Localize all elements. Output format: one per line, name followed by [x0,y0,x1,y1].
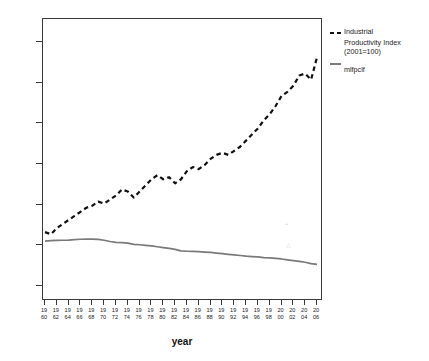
x-axis-tick-mark [210,300,211,305]
x-axis-tick-mark [103,300,104,305]
plot-area: ▵ △ [42,18,322,300]
x-axis-labels: 1960196219641966196819701972197419761978… [0,307,429,329]
x-axis-tick-mark [198,300,199,305]
x-axis-tick-mark [186,300,187,305]
chart-legend: Industrial Productivity Index (2001=100)… [330,20,429,78]
x-axis-tick-mark [150,300,151,305]
legend-label-line3: (2001=100) [344,47,429,56]
series-line-mlfpclf [45,239,317,264]
x-axis-tick-mark [269,300,270,305]
data-series-layer [43,19,321,299]
x-axis-title: year [0,336,364,347]
x-axis-tick-mark [245,300,246,305]
x-axis-tick-mark [139,300,140,305]
x-axis-tick-mark [281,300,282,305]
x-axis-tick-mark [257,300,258,305]
x-axis-tick-mark [68,300,69,305]
legend-label-industrial: Industrial Productivity Index (2001=100) [344,27,429,56]
x-axis-tick-mark [127,300,128,305]
x-axis-tick-mark [91,300,92,305]
legend-label-line2: Productivity Index [344,38,429,47]
dashed-line-marker [330,29,341,37]
x-axis-tick-mark [115,300,116,305]
x-axis-tick-mark [79,300,80,305]
legend-label-mlfpclf: mlfpclf [344,65,365,74]
x-axis-tick-mark [233,300,234,305]
x-axis-tick-mark [221,300,222,305]
x-axis-tick-mark [44,300,45,305]
x-axis-tick-mark [292,300,293,305]
series-line-industrial-productivity-index [45,57,317,234]
legend-item-industrial-productivity-index[interactable]: Industrial Productivity Index (2001=100) [330,20,429,56]
artifact-mark: △ [286,241,291,248]
x-axis-tick-mark [174,300,175,305]
legend-label-line1: Industrial [344,27,373,36]
artifact-mark: ▵ [285,219,288,226]
solid-line-marker [330,60,341,68]
legend-item-mlfpclf[interactable]: mlfpclf [330,58,429,76]
legend-label-line1: mlfpclf [344,65,365,74]
x-axis-tick-label: 2006 [308,307,324,322]
x-axis-tick-mark [304,300,305,305]
chart-figure: 020406080100120 ▵ △ 19601962196419661968… [0,0,429,361]
x-axis-tick-mark [316,300,317,305]
x-axis-tick-mark [162,300,163,305]
x-axis-tick-mark [56,300,57,305]
